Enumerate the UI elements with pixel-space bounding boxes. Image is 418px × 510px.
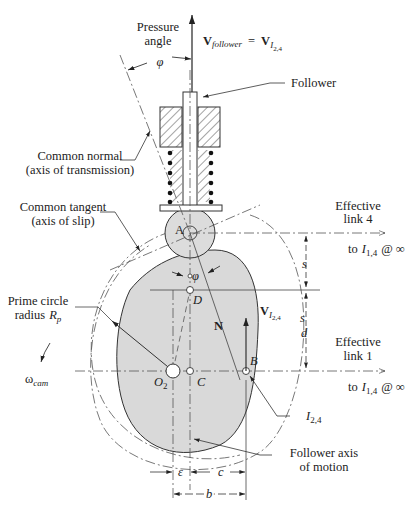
phi-top-arrow-right [172,57,191,59]
svg-text:(axis of slip): (axis of slip) [31,214,94,228]
i24-leader [250,376,290,416]
N-label: N [214,319,223,333]
common-tangent-leader [100,212,140,251]
cam-profile [117,250,258,452]
phi-mid-label: φ [192,269,199,283]
omega-cam-label: ωcam [25,372,49,388]
svg-text:radiusRp: radiusRp [15,308,62,324]
svg-text:of motion: of motion [300,460,350,474]
effective-link4-label: Effective [335,199,381,213]
spring-plate [160,205,222,211]
point-C [187,368,194,375]
epsilon-label: ε [178,465,183,479]
prime-leader [75,307,112,321]
point-B-label: B [250,354,258,368]
follower-leader [203,83,270,97]
v-follower-label: Vfollower=VI2,4 [203,34,282,53]
follower-axis-label: Follower axis [290,446,359,460]
omega-cam-arrow [41,343,50,362]
follower-label: Follower [291,76,337,90]
i24-label: I2,4 [305,409,322,425]
svg-text:(axis of transmission): (axis of transmission) [26,163,134,177]
point-D-label: D [192,293,202,307]
phi-top-arrow-left [128,63,147,70]
c-label: c [218,465,224,479]
common-tangent-label: Common tangent [20,200,107,214]
pressure-angle-label: Pressure [137,20,180,34]
d-label: d [301,326,308,340]
point-A-label: A [175,223,184,237]
to-i14-top-label: toI1,4@ ∞ [348,242,405,258]
s-dim-label: s [302,257,307,271]
svg-text:link 1: link 1 [344,349,373,363]
cam-follower-diagram: Pressure angle φ Vfollower=VI2,4 Followe… [0,0,418,510]
b-label: b [206,487,212,501]
point-O2 [166,364,180,378]
svg-text:angle: angle [144,34,172,48]
prime-circle-label: Prime circle [8,294,69,308]
vel-B-label: VI2,4 [260,304,281,322]
to-i14-bot-label: toI1,4@ ∞ [348,380,405,396]
guide-right [198,107,220,147]
svg-text:link 4: link 4 [344,212,374,226]
common-normal-label: Common normal [37,149,123,163]
s-label: s [300,311,305,325]
point-C-label: C [197,375,206,389]
common-normal-leader [120,131,150,160]
guide-left [160,107,182,147]
phi-top-label: φ [157,55,164,69]
effective-link1-label: Effective [335,335,381,349]
